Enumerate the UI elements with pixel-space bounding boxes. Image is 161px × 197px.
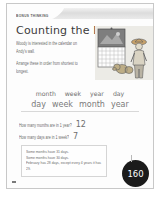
answer-word: week <box>52 100 73 109</box>
given-word: week <box>65 90 81 97</box>
page-banner: BONUS THINKING <box>7 8 153 19</box>
banner-label: BONUS THINKING <box>16 13 49 18</box>
woody-slinky-calendar-illustration <box>95 26 153 80</box>
question-row-2: How many days are in 1 week? 7 <box>19 132 78 141</box>
answer-word: month <box>79 100 105 109</box>
given-word: month <box>36 90 56 97</box>
given-word: year <box>90 90 104 97</box>
answer-writing-line <box>21 111 139 112</box>
question-text: How many days are in 1 week? <box>19 135 69 140</box>
question-answer[interactable]: 7 <box>73 132 78 141</box>
facts-note-box: Some months have 31 days. Some months ha… <box>21 145 107 177</box>
given-word: day <box>113 90 124 97</box>
question-text: How many months are in 1 year? <box>19 123 72 128</box>
worksheet-page: BONUS THINKING Counting the Days Woody i… <box>6 3 154 189</box>
intro-paragraph-2: Arrange these in order from shortest to … <box>16 60 82 76</box>
given-words-row: month week year day <box>7 90 153 97</box>
fact-line: February has 28 days, except every 4 yea… <box>26 160 102 171</box>
question-answer[interactable]: 12 <box>76 120 86 129</box>
answer-words-row[interactable]: day week month year <box>7 100 153 109</box>
page-number-badge: 160 <box>122 160 149 187</box>
answer-word: year <box>111 100 129 109</box>
answer-word: day <box>31 100 46 109</box>
question-row-1: How many months are in 1 year? 12 <box>19 120 86 129</box>
corner-mark <box>12 181 16 183</box>
intro-paragraph-1: Woody is interested in the calendar on A… <box>16 40 82 56</box>
